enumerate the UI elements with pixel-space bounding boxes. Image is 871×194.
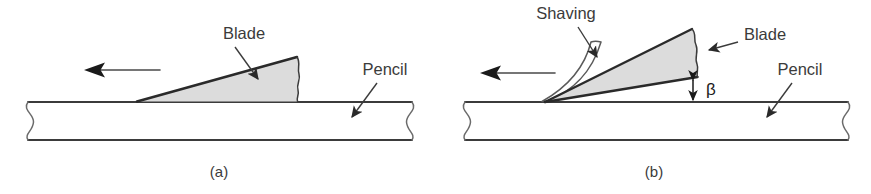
pencil-fill-b: [465, 102, 848, 140]
panel-caption-a: (a): [210, 163, 228, 180]
blade-label-b: Blade: [744, 25, 786, 43]
pencil-sharpening-diagram: Blade Pencil (a): [0, 0, 871, 194]
pencil-label-b: Pencil: [778, 60, 823, 78]
motion-arrow-b: [480, 66, 555, 81]
panel-caption-b: (b): [645, 163, 663, 180]
figure-root: Blade Pencil (a): [0, 0, 871, 194]
panel-a: Blade Pencil (a): [26, 24, 413, 180]
blade-wedge-b: [545, 29, 698, 102]
blade-leader-line-b: [709, 42, 738, 50]
blade-wedge-a: [137, 57, 299, 102]
pencil-label-a: Pencil: [363, 60, 408, 78]
pencil-fill-a: [28, 102, 412, 140]
angle-dimension-b: β: [693, 80, 716, 100]
shaving-label-b: Shaving: [536, 4, 596, 22]
blade-label-a: Blade: [223, 24, 265, 42]
pencil-body-a: [26, 102, 413, 140]
pencil-body-b: [463, 102, 849, 140]
motion-arrow-a: [84, 63, 160, 78]
panel-b: β Shaving Blade Pencil (b): [463, 4, 849, 180]
beta-angle-label-b: β: [706, 80, 716, 99]
